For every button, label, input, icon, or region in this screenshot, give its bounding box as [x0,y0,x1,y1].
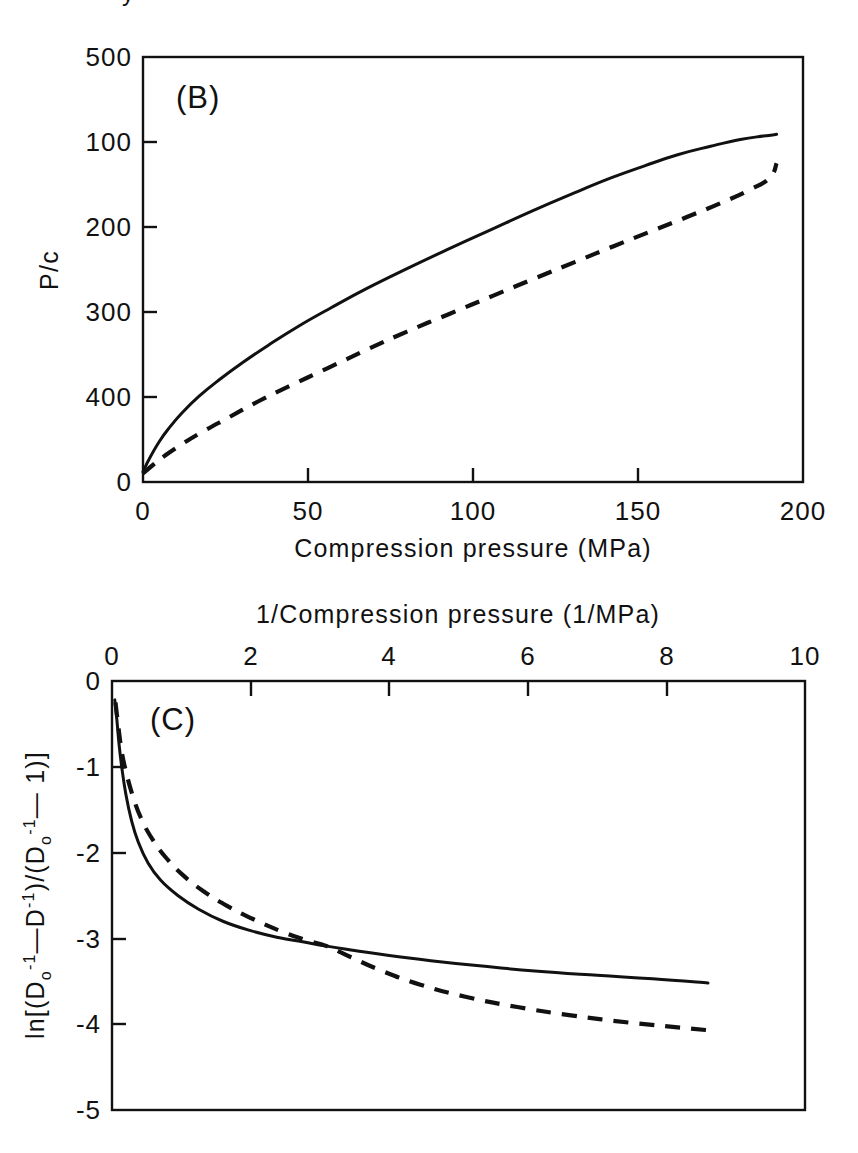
ylabel-prefix: ln[(D [21,980,49,1039]
panel-c-xlabel: 1/Compression pressure (1/MPa) [256,600,660,628]
ylabel-mid-1: —D [21,908,49,953]
panel-b-dashed-series [143,163,777,473]
ylabel-sup-neg1-c: -1 [21,818,38,835]
panel-b-plot-frame [143,57,803,482]
panel-c-plot-frame [112,681,805,1110]
panel-b-xtick-200: 200 [780,496,826,526]
panel-c-ytick-0: 0 [86,666,101,696]
panel-b-ytick-labels: 500 400 300 200 100 0 [86,42,132,497]
panel-c-xtick-4: 4 [381,641,396,671]
panel-c-chart: 0 2 4 6 8 10 0 -1 -2 -3 -4 -5 (C) 1/Comp… [0,593,858,1153]
panel-c-xtick-8: 8 [659,641,674,671]
panel-c-xtick-2: 2 [243,641,258,671]
panel-c-xtick-6: 6 [520,641,535,671]
panel-c-ytick-m1: -1 [76,752,101,782]
panel-c-ytick-labels: 0 -1 -2 -3 -4 -5 [76,666,101,1125]
panel-c-ytick-m5: -5 [76,1095,101,1125]
panel-c-solid-series [115,700,708,983]
panel-b-xtick-100: 100 [450,496,496,526]
panel-c-ytick-m4: -4 [76,1009,101,1039]
panel-c-ytick-m2: -2 [76,838,101,868]
panel-b-ytick-0: 0 [117,467,132,497]
panel-c-axes [112,681,805,1110]
panel-c-dashed-series [115,702,708,1030]
panel-b-ytick-300: 300 [86,297,132,327]
panel-b-axes [143,57,803,482]
panel-b-xtick-50: 50 [293,496,324,526]
figure-root: y 500 400 300 200 100 [0,0,858,1153]
panel-b-ylabel: P/c [35,250,63,290]
ylabel-mid-3: — 1)] [21,751,49,818]
ylabel-sub-o-1: o [37,970,54,980]
ylabel-sup-neg1-a: -1 [21,953,38,970]
panel-c-xtick-labels: 0 2 4 6 8 10 [104,641,820,671]
panel-b-ytick-100: 100 [86,127,132,157]
panel-c-xtick-0: 0 [104,641,119,671]
panel-c-xtick-marks [251,681,667,696]
svg-text:ln[(Do-1—D-1)/(Do-1— 1)]: ln[(Do-1—D-1)/(Do-1— 1)] [20,751,54,1039]
panel-b-xtick-150: 150 [615,496,661,526]
panel-b-ytick-500: 500 [86,42,132,72]
ylabel-sub-o-2: o [37,835,54,845]
panel-c-label: (C) [150,702,196,737]
panel-c-ylabel: ln[(Do-1—D-1)/(Do-1— 1)] [20,751,54,1039]
panel-b-xtick-0: 0 [135,496,150,526]
ylabel-mid-2: )/(D [21,845,49,891]
panel-b-xtick-marks [308,468,638,482]
panel-c-ytick-m3: -3 [76,924,101,954]
panel-b-xtick-labels: 0 50 100 150 200 [135,496,826,526]
panel-b-chart: 500 400 300 200 100 0 0 50 100 150 200 (… [0,0,858,575]
panel-b-xlabel: Compression pressure (MPa) [294,534,652,562]
ylabel-sup-neg1-b: -1 [20,891,37,908]
panel-c-xtick-10: 10 [790,641,821,671]
panel-c-ytick-marks [112,767,126,1024]
panel-b-ytick-marks [143,142,157,397]
panel-b-solid-series [143,134,777,471]
panel-b-ytick-400: 400 [86,382,132,412]
panel-b-ytick-200: 200 [86,212,132,242]
panel-b-label: (B) [176,80,220,115]
